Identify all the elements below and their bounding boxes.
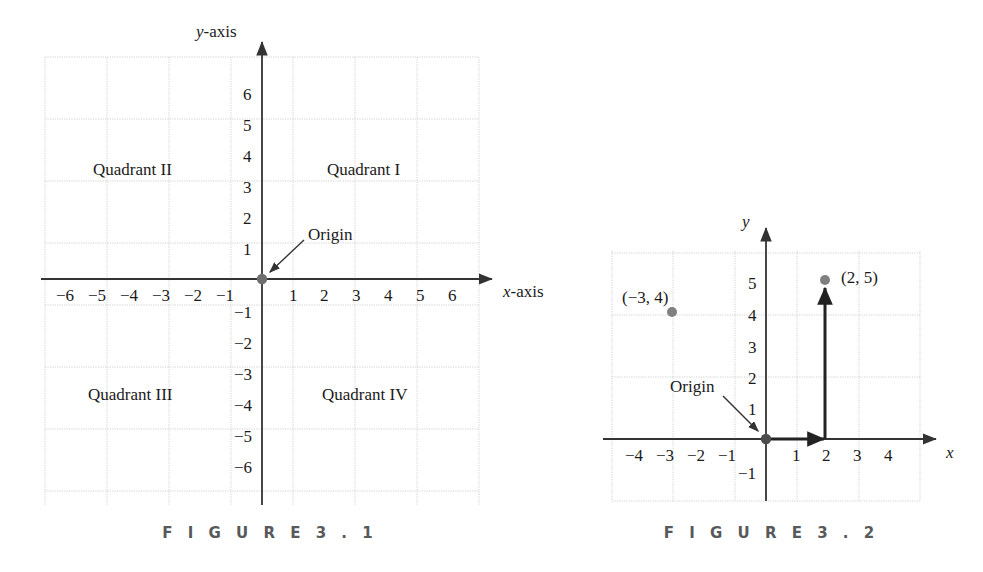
x-tick-label: 1	[792, 446, 801, 466]
y-tick-label: 2	[243, 209, 252, 229]
figure-3-2: y x Origin (−3, 4) (2, 5) −4 −3 −2 −1 1 …	[560, 0, 983, 572]
y-tick-label: −2	[234, 334, 252, 354]
y-tick-label: 6	[243, 85, 252, 105]
x-tick-label: −3	[152, 286, 170, 306]
y-tick-label: −4	[234, 396, 252, 416]
y-tick-label: 3	[243, 178, 252, 198]
x-tick-label: 4	[384, 286, 393, 306]
y-axis-label: y	[742, 212, 750, 232]
quadrant-iii-label: Quadrant III	[88, 385, 173, 405]
point-2-5	[820, 275, 830, 285]
x-tick-label: 6	[448, 286, 457, 306]
figure-3-1-plot	[0, 0, 540, 572]
y-tick-label: 1	[748, 400, 757, 420]
origin-point	[257, 274, 267, 284]
y-tick-label: −3	[234, 365, 252, 385]
x-axis-label-italic: x	[503, 282, 511, 301]
point-neg3-4	[667, 307, 677, 317]
x-tick-label: 4	[884, 446, 893, 466]
y-tick-label: −5	[234, 427, 252, 447]
x-tick-label: −5	[88, 286, 106, 306]
y-tick-label: 1	[243, 240, 252, 260]
x-tick-label: −2	[184, 286, 202, 306]
x-tick-label: −1	[216, 286, 234, 306]
y-tick-label: 3	[748, 338, 757, 358]
quadrant-i-label: Quadrant I	[327, 160, 400, 180]
y-tick-label: 5	[748, 274, 757, 294]
figure-3-2-plot	[560, 0, 983, 572]
x-tick-label: −1	[718, 446, 736, 466]
y-tick-label: 4	[748, 306, 757, 326]
quadrant-iv-label: Quadrant IV	[322, 385, 407, 405]
x-tick-label: −3	[656, 446, 674, 466]
x-tick-label: 2	[320, 286, 329, 306]
x-tick-label: 3	[352, 286, 361, 306]
origin-label: Origin	[670, 377, 714, 397]
y-axis-label-italic: y	[196, 22, 204, 41]
x-tick-label: −4	[625, 446, 643, 466]
origin-arrow	[270, 240, 304, 272]
y-tick-label: 4	[243, 147, 252, 167]
x-tick-label: 3	[853, 446, 862, 466]
x-tick-label: −6	[56, 286, 74, 306]
y-tick-label: 2	[748, 369, 757, 389]
x-tick-label: −2	[687, 446, 705, 466]
y-tick-label: −1	[234, 303, 252, 323]
point-label-2-5: (2, 5)	[841, 268, 878, 288]
figure-3-1-caption: F I G U R E 3 . 1	[0, 524, 540, 542]
x-axis-label: x	[946, 443, 954, 463]
x-axis-label-rest: -axis	[511, 282, 544, 301]
y-tick-label: −6	[234, 458, 252, 478]
x-tick-label: 2	[822, 446, 831, 466]
origin-point	[761, 434, 771, 444]
y-tick-label: 5	[243, 116, 252, 136]
x-axis-label: x-axis	[503, 282, 544, 302]
x-tick-label: −4	[120, 286, 138, 306]
x-tick-label: 5	[416, 286, 425, 306]
origin-label: Origin	[308, 225, 352, 245]
point-label-neg3-4: (−3, 4)	[622, 288, 668, 308]
figure-3-2-caption: F I G U R E 3 . 2	[560, 524, 983, 542]
y-tick-label: −1	[738, 464, 756, 484]
y-axis-label-rest: -axis	[204, 22, 237, 41]
quadrant-ii-label: Quadrant II	[93, 160, 172, 180]
x-tick-label: 1	[289, 286, 298, 306]
figure-3-1: y-axis x-axis Origin Quadrant II Quadran…	[0, 0, 540, 572]
y-axis-label: y-axis	[196, 22, 237, 42]
